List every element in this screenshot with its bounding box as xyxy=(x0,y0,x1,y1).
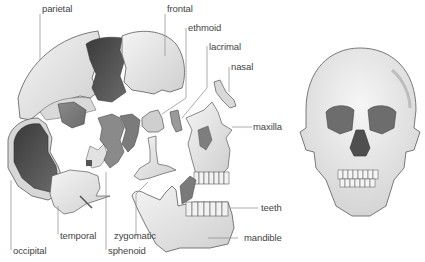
upper-teeth xyxy=(194,172,229,184)
frontal-bone xyxy=(122,31,184,94)
frontal-skull xyxy=(300,48,420,216)
skull-diagram xyxy=(0,0,425,262)
label-nasal: nasal xyxy=(231,61,253,72)
label-occipital: occipital xyxy=(13,245,46,256)
label-sphenoid: sphenoid xyxy=(108,245,146,256)
sphenoid-bone xyxy=(98,114,140,168)
label-frontal: frontal xyxy=(167,3,193,14)
lower-teeth xyxy=(186,202,228,216)
label-ethmoid: ethmoid xyxy=(188,22,221,33)
label-parietal: parietal xyxy=(42,3,72,14)
maxilla-bone xyxy=(186,102,232,174)
ethmoid-bone xyxy=(142,110,164,132)
label-lacrimal: lacrimal xyxy=(209,41,241,52)
nasal-bone xyxy=(214,80,236,108)
temporal-bone xyxy=(50,144,110,214)
label-maxilla: maxilla xyxy=(253,121,282,132)
label-zygomatic: zygomatic xyxy=(114,230,156,241)
zygomatic-bone xyxy=(134,136,176,180)
label-mandible: mandible xyxy=(244,232,282,243)
label-teeth: teeth xyxy=(261,202,282,213)
lacrimal-bone xyxy=(170,110,182,132)
label-temporal: temporal xyxy=(60,230,96,241)
